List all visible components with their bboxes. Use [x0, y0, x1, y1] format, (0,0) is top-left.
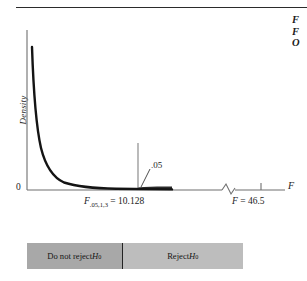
alpha-leader-line [141, 169, 150, 187]
alpha-area-label: .05 [151, 160, 162, 170]
figure-container: F F O Density 0 .05 F F.05,1,3 = 10.128 … [0, 0, 307, 281]
decision-segment-do-not-reject: Do not reject H0 [27, 243, 123, 269]
axis-break-zigzag [222, 184, 235, 194]
critical-value-label: F.05,1,3 = 10.128 [84, 196, 144, 208]
do-not-reject-subscript: 0 [98, 253, 101, 260]
do-not-reject-text: Do not reject [47, 251, 92, 261]
decision-bar: Do not reject H0 Reject H0 [27, 243, 243, 269]
reject-text: Reject [167, 251, 189, 261]
observed-value-equals: = 46.5 [238, 196, 265, 206]
f-distribution-plot [0, 0, 307, 281]
x-axis-label: F [288, 180, 294, 191]
y-axis-origin-label: 0 [16, 182, 21, 192]
observed-value-label: F = 46.5 [232, 196, 265, 206]
critical-value-equals: = 10.128 [108, 196, 144, 206]
decision-segment-reject: Reject H0 [123, 243, 243, 269]
y-axis-label: Density [18, 80, 28, 140]
reject-subscript: 0 [195, 253, 198, 260]
critical-value-subscript: .05,1,3 [90, 201, 108, 208]
